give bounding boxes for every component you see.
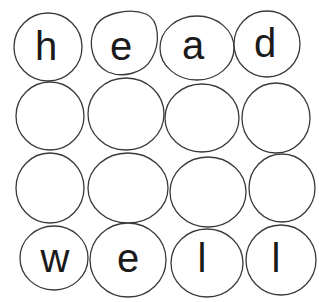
bubble-cell-2-4[interactable] — [242, 83, 310, 153]
cell-letter: d — [254, 21, 276, 65]
bubble-outline — [88, 78, 164, 150]
cell-letter: l — [198, 236, 207, 280]
word-bubble-grid: h e a d — [0, 0, 319, 302]
cell-letter: a — [182, 23, 205, 67]
cell-letter: w — [40, 236, 70, 280]
bubble-cell-1-4[interactable]: d — [234, 11, 300, 77]
bubble-outline — [16, 82, 84, 150]
bubble-outline — [165, 84, 239, 152]
bubble-cell-4-3[interactable]: l — [171, 229, 243, 297]
bubble-outline — [170, 157, 246, 227]
bubble-outline — [16, 153, 84, 223]
cell-letter: l — [272, 236, 281, 280]
bubble-cell-3-2[interactable] — [88, 153, 168, 223]
bubble-cell-3-4[interactable] — [249, 154, 315, 222]
bubble-outline — [246, 225, 316, 295]
bubble-cell-2-3[interactable] — [165, 84, 239, 152]
bubble-cell-4-1[interactable]: w — [20, 226, 88, 290]
cell-letter: h — [35, 24, 57, 68]
bubble-cell-3-1[interactable] — [16, 153, 84, 223]
bubble-canvas: h e a d — [0, 0, 319, 302]
bubble-cell-4-2[interactable]: e — [90, 223, 166, 297]
bubble-cell-1-1[interactable]: h — [14, 13, 82, 81]
bubble-cell-4-4[interactable]: l — [246, 225, 316, 295]
bubble-outline — [171, 229, 243, 297]
bubble-cell-3-3[interactable] — [170, 157, 246, 227]
bubble-outline — [88, 153, 168, 223]
bubble-outline — [242, 83, 310, 153]
bubble-cell-1-2[interactable]: e — [91, 11, 157, 74]
bubble-cell-2-2[interactable] — [88, 78, 164, 150]
cell-letter: e — [117, 236, 139, 280]
bubble-cell-1-3[interactable]: a — [160, 16, 234, 80]
bubble-outline — [249, 154, 315, 222]
cell-letter: e — [110, 24, 132, 68]
bubble-cell-2-1[interactable] — [16, 82, 84, 150]
